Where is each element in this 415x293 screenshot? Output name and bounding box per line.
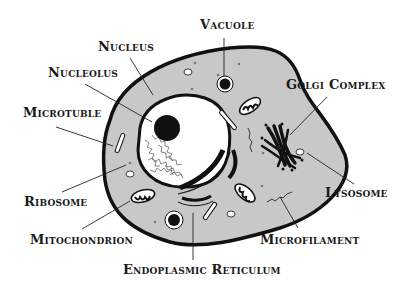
label-microfilament: Microfilament: [260, 233, 359, 246]
nucleus: [138, 95, 230, 187]
cell-diagram: [0, 0, 415, 293]
label-nucleus: Nucleus: [98, 40, 154, 53]
label-endoplasmic-reticulum: Endoplasmic Reticulum: [123, 263, 281, 276]
label-lysosome: Lysosome: [325, 186, 388, 199]
label-microtuble: Microtuble: [23, 106, 101, 119]
label-vacuole: Vacuole: [200, 18, 255, 31]
label-nucleolus: Nucleolus: [48, 66, 118, 79]
label-golgi-complex: Golgi Complex: [286, 78, 385, 91]
nucleolus: [154, 115, 180, 141]
label-ribosome: Ribosome: [24, 195, 87, 208]
vacuole-bottom-core: [168, 214, 180, 226]
label-mitochondrion: Mitochondrion: [30, 233, 133, 246]
vacuole-top-core: [220, 79, 231, 90]
